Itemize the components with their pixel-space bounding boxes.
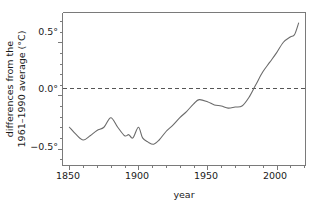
- y-tick-label-2: −0.5°: [30, 141, 58, 152]
- temperature-anomaly-figure: 0.5° 0.0° −0.5° 1850 1900 1950 2000 year…: [0, 0, 314, 204]
- x-tick-label-0: 1850: [56, 170, 80, 181]
- temperature-anomaly-line: [69, 23, 298, 144]
- y-axis-title-line2: 1961–1990 average (°C): [16, 31, 27, 148]
- x-tick-label-1: 1900: [125, 170, 149, 181]
- y-axis-title-line1: differences from the: [4, 41, 15, 138]
- y-tick-label-1: 0.0°: [38, 83, 58, 94]
- x-tick-label-2: 1950: [194, 170, 218, 181]
- y-axis-ticks: [58, 22, 63, 160]
- chart-canvas: 0.5° 0.0° −0.5° 1850 1900 1950 2000 year…: [0, 0, 314, 204]
- y-tick-label-0: 0.5°: [38, 26, 58, 37]
- x-tick-label-3: 2000: [263, 170, 287, 181]
- x-axis-title: year: [173, 189, 194, 200]
